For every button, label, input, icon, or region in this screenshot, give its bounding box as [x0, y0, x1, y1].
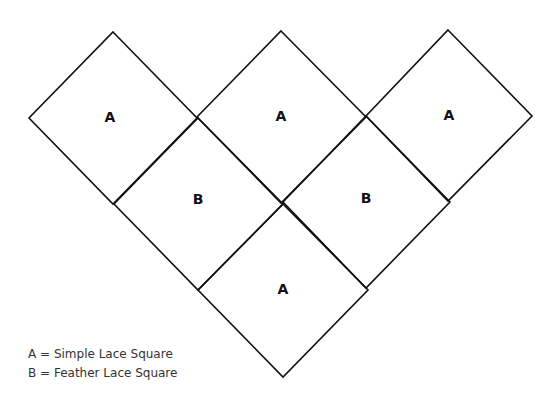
legend-item-feather-lace: B = Feather Lace Square	[28, 364, 177, 383]
legend: A = Simple Lace Square B = Feather Lace …	[28, 345, 177, 383]
legend-item-simple-lace: A = Simple Lace Square	[28, 345, 177, 364]
square-label-b-middle-right: B	[361, 190, 372, 206]
square-outlines	[29, 30, 532, 377]
square-label-a-top-left: A	[105, 109, 116, 125]
square-label-a-top-middle: A	[276, 108, 287, 124]
square-label-a-top-right: A	[444, 107, 455, 123]
square-label-a-bottom: A	[278, 281, 289, 297]
square-label-b-middle-left: B	[193, 191, 204, 207]
